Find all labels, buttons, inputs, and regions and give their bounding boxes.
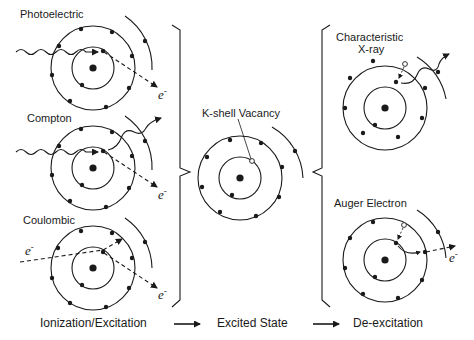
label-characteristic: Characteristic — [336, 32, 403, 43]
label-k-shell-vacancy: K-shell Vacancy — [202, 108, 280, 119]
nucleus — [89, 64, 96, 71]
footer-excited-state: Excited State — [217, 317, 288, 329]
atom-excited-state — [198, 119, 303, 220]
brace-left — [172, 25, 190, 307]
label-photoelectric: Photoelectric — [20, 9, 84, 20]
electron-label-photoelectric: e- — [158, 87, 167, 101]
k-shell-vacancy-marker — [250, 159, 255, 164]
diagram-graphics — [0, 0, 474, 340]
label-coulombic: Coulombic — [23, 215, 75, 226]
electron-label-compton: e- — [158, 187, 167, 201]
atomic-interaction-diagram: Photoelectric e- Compton e- Coulombic e-… — [0, 0, 474, 340]
electron-label-coulombic-in: e- — [25, 243, 34, 257]
electron-label-auger: e- — [449, 250, 458, 264]
atom-coulombic — [20, 218, 157, 310]
label-xray: X-ray — [358, 44, 384, 55]
brace-right — [313, 25, 330, 307]
electron-label-coulombic-out: e- — [158, 287, 167, 301]
atom-characteristic-xray — [343, 54, 449, 150]
footer-ionization-excitation: Ionization/Excitation — [40, 317, 147, 329]
atom-photoelectric — [16, 16, 157, 110]
atom-auger-electron — [343, 210, 455, 302]
atom-compton — [16, 116, 161, 210]
label-auger-electron: Auger Electron — [334, 198, 407, 209]
footer-de-excitation: De-excitation — [353, 317, 423, 329]
label-compton: Compton — [27, 113, 72, 124]
